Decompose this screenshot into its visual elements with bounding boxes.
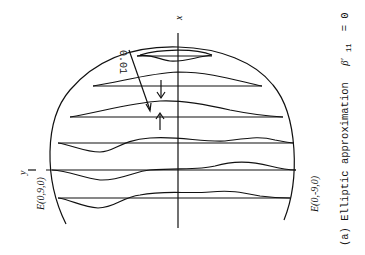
deflection-curves — [52, 50, 296, 208]
svg-text:(a) Elliptic approximation: (a) Elliptic approximation β′ 11 = 0 — [339, 12, 354, 246]
elliptic-approximation-diagram: x y E(0,9,0) E(0,-9,0) 0.01 (a) Elliptic… — [0, 0, 365, 255]
caption-equation: = 0 — [339, 12, 351, 31]
section-lines — [58, 56, 294, 198]
point-top-label: E(0,9,0) — [35, 177, 47, 211]
figure-caption: (a) Elliptic approximation β′ 11 = 0 — [339, 12, 354, 246]
point-bottom-label: E(0,-9,0) — [309, 175, 321, 213]
caption-symbol: β′ — [339, 58, 350, 67]
caption-subscript: 11 — [345, 44, 353, 52]
scale-label: 0.01 — [117, 50, 128, 74]
y-axis-label: y — [17, 170, 28, 176]
scale-indicator — [129, 50, 165, 130]
x-axis-label: x — [173, 15, 184, 21]
caption-text: (a) Elliptic approximation — [339, 82, 351, 246]
